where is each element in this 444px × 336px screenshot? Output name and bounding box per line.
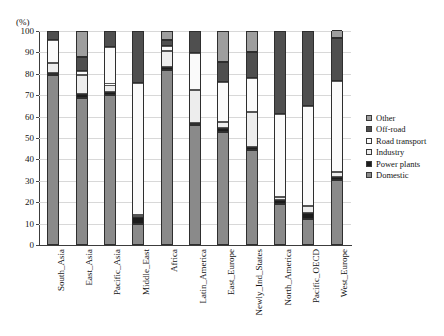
- bar-segment-off-road[interactable]: [133, 31, 143, 83]
- bar-group[interactable]: [189, 31, 201, 245]
- bar-segment-power-plants[interactable]: [77, 94, 87, 98]
- bar-stack[interactable]: [132, 31, 144, 245]
- bar-segment-domestic[interactable]: [162, 70, 172, 245]
- bar-segment-domestic[interactable]: [303, 219, 313, 245]
- bar-segment-industry[interactable]: [190, 90, 200, 123]
- bar-segment-industry[interactable]: [48, 63, 58, 73]
- y-axis-tick-label: 80: [25, 69, 34, 78]
- bar-segment-power-plants[interactable]: [133, 217, 143, 223]
- bar-stack[interactable]: [246, 31, 258, 245]
- bar-segment-road-transport[interactable]: [133, 83, 143, 215]
- bar-segment-off-road[interactable]: [218, 62, 228, 82]
- bar-segment-domestic[interactable]: [247, 150, 257, 245]
- bar-segment-industry[interactable]: [332, 172, 342, 176]
- bar-segment-industry[interactable]: [275, 197, 285, 200]
- bar-group[interactable]: [246, 31, 258, 245]
- bar-segment-power-plants[interactable]: [190, 123, 200, 125]
- bar-segment-domestic[interactable]: [275, 204, 285, 245]
- bar-segment-domestic[interactable]: [48, 75, 58, 245]
- bar-segment-road-transport[interactable]: [77, 71, 87, 75]
- bar-group[interactable]: [331, 31, 343, 245]
- bar-stack[interactable]: [47, 31, 59, 245]
- bar-segment-other[interactable]: [77, 31, 87, 57]
- bar-segment-road-transport[interactable]: [105, 47, 115, 84]
- bar-segment-power-plants[interactable]: [48, 73, 58, 75]
- tick-mark: [36, 31, 39, 32]
- bar-segment-domestic[interactable]: [77, 98, 87, 245]
- bar-group[interactable]: [161, 31, 173, 245]
- bar-segment-road-transport[interactable]: [48, 40, 58, 64]
- legend-item[interactable]: Road transport: [366, 135, 442, 147]
- bar-segment-off-road[interactable]: [247, 52, 257, 78]
- y-axis-tick-label: 30: [25, 176, 34, 185]
- bar-segment-off-road[interactable]: [162, 40, 172, 46]
- bar-segment-off-road[interactable]: [303, 31, 313, 106]
- bar-segment-industry[interactable]: [105, 85, 115, 92]
- bar-group[interactable]: [76, 31, 88, 245]
- x-axis-label: East_Europe: [227, 249, 236, 295]
- legend-item[interactable]: Off-road: [366, 124, 442, 136]
- bar-stack[interactable]: [104, 31, 116, 245]
- bar-segment-road-transport[interactable]: [247, 78, 257, 112]
- bar-segment-power-plants[interactable]: [303, 213, 313, 219]
- bar-segment-power-plants[interactable]: [247, 147, 257, 150]
- bar-segment-other[interactable]: [162, 31, 172, 40]
- bar-segment-other[interactable]: [332, 30, 342, 39]
- x-axis-label: Latin_America: [199, 249, 208, 303]
- bar-stack[interactable]: [331, 31, 343, 245]
- bar-segment-domestic[interactable]: [218, 132, 228, 245]
- legend-item[interactable]: Power plants: [366, 158, 442, 170]
- bar-stack[interactable]: [217, 31, 229, 245]
- bar-segment-industry[interactable]: [218, 122, 228, 128]
- bar-stack[interactable]: [274, 31, 286, 245]
- bar-segment-off-road[interactable]: [105, 31, 115, 47]
- bar-segment-road-transport[interactable]: [162, 46, 172, 51]
- bar-segment-industry[interactable]: [247, 112, 257, 146]
- tick-mark: [36, 245, 39, 246]
- bar-segment-other[interactable]: [218, 31, 228, 62]
- bar-stack[interactable]: [161, 31, 173, 245]
- bar-segment-power-plants[interactable]: [218, 128, 228, 131]
- bar-segment-power-plants[interactable]: [275, 200, 285, 204]
- bar-segment-industry[interactable]: [303, 206, 313, 212]
- bar-segment-domestic[interactable]: [105, 95, 115, 245]
- bar-segment-other[interactable]: [247, 31, 257, 52]
- y-axis-tick-label: 20: [25, 198, 34, 207]
- bar-group[interactable]: [132, 31, 144, 245]
- bar-segment-off-road[interactable]: [48, 31, 58, 40]
- bar-segment-road-transport[interactable]: [303, 106, 313, 207]
- bar-segment-industry[interactable]: [162, 51, 172, 67]
- bar-group[interactable]: [302, 31, 314, 245]
- bar-group[interactable]: [274, 31, 286, 245]
- bar-segment-domestic[interactable]: [332, 180, 342, 245]
- bar-segment-road-transport[interactable]: [218, 82, 228, 122]
- bar-group[interactable]: [47, 31, 59, 245]
- y-axis-tick-label: 40: [25, 155, 34, 164]
- bar-group[interactable]: [104, 31, 116, 245]
- y-axis-tick-label: 100: [21, 27, 35, 36]
- legend-item[interactable]: Industry: [366, 147, 442, 159]
- bar-segment-domestic[interactable]: [190, 125, 200, 245]
- bar-segment-off-road[interactable]: [77, 57, 87, 71]
- bar-segment-road-transport[interactable]: [275, 114, 285, 196]
- bar-stack[interactable]: [189, 31, 201, 245]
- y-axis-tick-label: 10: [25, 219, 34, 228]
- tick-mark: [36, 52, 39, 53]
- legend-item[interactable]: Other: [366, 112, 442, 124]
- bar-segment-off-road[interactable]: [190, 31, 200, 53]
- bar-segment-road-transport[interactable]: [332, 81, 342, 172]
- legend-label: Industry: [376, 148, 404, 157]
- bar-stack[interactable]: [76, 31, 88, 245]
- bar-segment-domestic[interactable]: [133, 224, 143, 245]
- legend-item[interactable]: Domestic: [366, 170, 442, 182]
- bar-segment-power-plants[interactable]: [162, 67, 172, 69]
- bar-segment-off-road[interactable]: [332, 38, 342, 81]
- bar-segment-industry[interactable]: [77, 75, 87, 94]
- bar-segment-road-transport[interactable]: [190, 53, 200, 89]
- bar-segment-industry[interactable]: [133, 215, 143, 217]
- bar-segment-off-road[interactable]: [275, 31, 285, 114]
- bar-segment-power-plants[interactable]: [105, 92, 115, 95]
- bar-segment-power-plants[interactable]: [332, 177, 342, 180]
- bar-stack[interactable]: [302, 31, 314, 245]
- bar-group[interactable]: [217, 31, 229, 245]
